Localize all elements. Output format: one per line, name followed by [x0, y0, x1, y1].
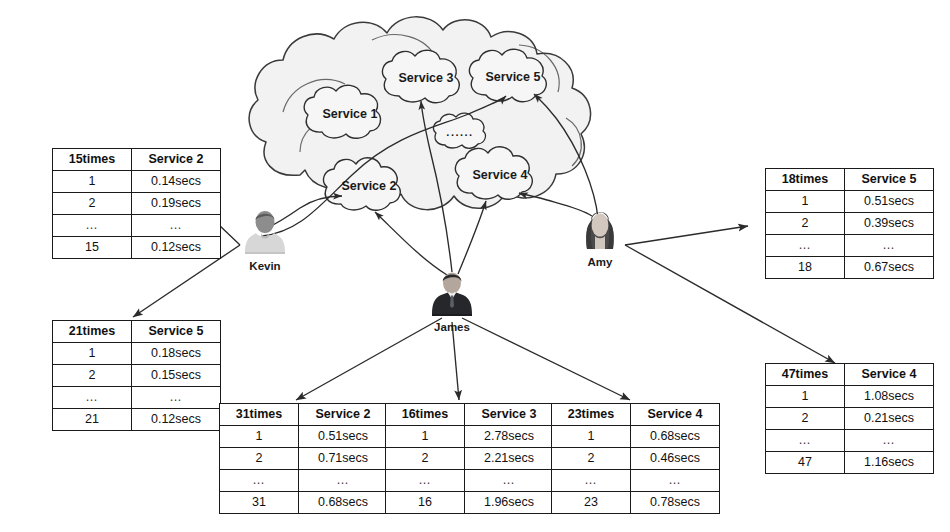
- row-duration: …: [465, 470, 554, 492]
- service-4-label: Service 4: [468, 168, 532, 182]
- row-index: 23: [552, 492, 631, 514]
- female-avatar: [578, 203, 622, 255]
- user-amy[interactable]: Amy: [573, 203, 627, 268]
- header-count: 15times: [53, 149, 132, 171]
- row-index: 2: [552, 448, 631, 470]
- row-index: 1: [552, 426, 631, 448]
- table-row: 1 0.14secs: [53, 171, 221, 193]
- table-row: 23 0.78secs: [552, 492, 720, 514]
- row-duration: 0.51secs: [299, 426, 388, 448]
- table-row: 1 0.51secs: [766, 191, 934, 213]
- table-header-row: 23times Service 4: [552, 404, 720, 426]
- male-casual-avatar: [243, 207, 287, 259]
- table-row: 1 2.78secs: [386, 426, 554, 448]
- row-index: 2: [53, 365, 132, 387]
- row-duration: 2.21secs: [465, 448, 554, 470]
- table-header-row: 31times Service 2: [220, 404, 388, 426]
- table-row-ellipsis: … …: [552, 470, 720, 492]
- outer-cloud-shape: [249, 17, 590, 210]
- user-james[interactable]: James: [425, 268, 479, 333]
- row-duration: 0.51secs: [845, 191, 934, 213]
- header-count: 31times: [220, 404, 299, 426]
- row-duration: 0.12secs: [132, 409, 221, 431]
- row-duration: …: [132, 215, 221, 237]
- row-index: 2: [220, 448, 299, 470]
- table-row: 16 1.96secs: [386, 492, 554, 514]
- user-amy-label: Amy: [573, 256, 627, 268]
- table-kevin-service-5[interactable]: 21times Service 5 1 0.18secs 2 0.15secs …: [52, 320, 221, 431]
- table-row: 1 0.51secs: [220, 426, 388, 448]
- row-index: 1: [386, 426, 465, 448]
- row-duration: 2.78secs: [465, 426, 554, 448]
- table-row-ellipsis: … …: [220, 470, 388, 492]
- row-index: …: [220, 470, 299, 492]
- row-index: 2: [53, 193, 132, 215]
- row-index: 16: [386, 492, 465, 514]
- table-row: 1 0.68secs: [552, 426, 720, 448]
- table-row: 2 0.46secs: [552, 448, 720, 470]
- row-duration: 0.21secs: [845, 408, 934, 430]
- row-index: 1: [220, 426, 299, 448]
- table-row: 2 0.15secs: [53, 365, 221, 387]
- table-row-ellipsis: … …: [386, 470, 554, 492]
- row-index: 31: [220, 492, 299, 514]
- row-duration: 0.15secs: [132, 365, 221, 387]
- row-index: 1: [766, 386, 845, 408]
- row-duration: 1.08secs: [845, 386, 934, 408]
- header-service: Service 5: [132, 321, 221, 343]
- table-kevin-service-2[interactable]: 15times Service 2 1 0.14secs 2 0.19secs …: [52, 148, 221, 259]
- row-index: …: [766, 235, 845, 257]
- header-count: 21times: [53, 321, 132, 343]
- row-duration: 0.67secs: [845, 257, 934, 279]
- row-index: 1: [53, 171, 132, 193]
- row-duration: 0.68secs: [631, 426, 720, 448]
- table-row: 2 0.71secs: [220, 448, 388, 470]
- row-duration: …: [845, 235, 934, 257]
- table-row: 21 0.12secs: [53, 409, 221, 431]
- header-service: Service 2: [299, 404, 388, 426]
- table-amy-service-5[interactable]: 18times Service 5 1 0.51secs 2 0.39secs …: [765, 168, 934, 279]
- user-james-label: James: [425, 321, 479, 333]
- row-duration: 0.78secs: [631, 492, 720, 514]
- table-header-row: 16times Service 3: [386, 404, 554, 426]
- row-index: 15: [53, 237, 132, 259]
- row-duration: …: [845, 430, 934, 452]
- table-james-service-3[interactable]: 16times Service 3 1 2.78secs 2 2.21secs …: [385, 403, 554, 514]
- header-service: Service 4: [845, 364, 934, 386]
- table-james-service-4[interactable]: 23times Service 4 1 0.68secs 2 0.46secs …: [551, 403, 720, 514]
- header-count: 16times: [386, 404, 465, 426]
- row-index: …: [552, 470, 631, 492]
- row-index: 21: [53, 409, 132, 431]
- row-duration: 1.16secs: [845, 452, 934, 474]
- row-duration: 0.14secs: [132, 171, 221, 193]
- table-row: 47 1.16secs: [766, 452, 934, 474]
- header-count: 18times: [766, 169, 845, 191]
- header-service: Service 5: [845, 169, 934, 191]
- service-1-label: Service 1: [318, 107, 382, 121]
- row-index: …: [766, 430, 845, 452]
- header-service: Service 2: [132, 149, 221, 171]
- user-kevin[interactable]: Kevin: [238, 207, 292, 272]
- row-duration: …: [132, 387, 221, 409]
- row-duration: 0.12secs: [132, 237, 221, 259]
- table-header-row: 21times Service 5: [53, 321, 221, 343]
- table-row: 2 0.39secs: [766, 213, 934, 235]
- table-header-row: 18times Service 5: [766, 169, 934, 191]
- user-kevin-label: Kevin: [238, 260, 292, 272]
- table-row: 2 0.19secs: [53, 193, 221, 215]
- table-row-ellipsis: … …: [53, 387, 221, 409]
- row-index: 2: [766, 408, 845, 430]
- table-james-service-2[interactable]: 31times Service 2 1 0.51secs 2 0.71secs …: [219, 403, 388, 514]
- row-index: 47: [766, 452, 845, 474]
- row-index: 1: [766, 191, 845, 213]
- service-2-label: Service 2: [337, 179, 401, 193]
- table-row: 2 0.21secs: [766, 408, 934, 430]
- header-count: 47times: [766, 364, 845, 386]
- table-row: 1 1.08secs: [766, 386, 934, 408]
- row-duration: 0.39secs: [845, 213, 934, 235]
- link-james-service-4: [458, 201, 486, 274]
- row-index: 2: [766, 213, 845, 235]
- row-duration: 0.68secs: [299, 492, 388, 514]
- row-duration: …: [299, 470, 388, 492]
- table-amy-service-4[interactable]: 47times Service 4 1 1.08secs 2 0.21secs …: [765, 363, 934, 474]
